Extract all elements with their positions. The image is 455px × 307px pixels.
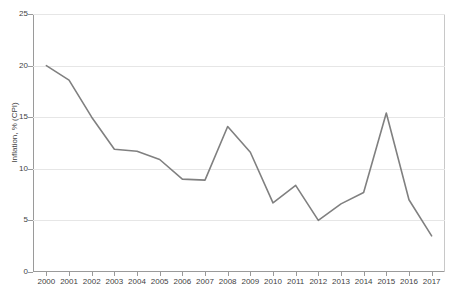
x-tick-label: 2003: [105, 278, 123, 286]
x-tick-mark: [205, 272, 206, 276]
x-tick-mark: [364, 272, 365, 276]
x-tick-mark: [182, 272, 183, 276]
x-tick-mark: [92, 272, 93, 276]
x-axis-ticks: 2000200120022003200420052006200720082009…: [0, 0, 455, 307]
x-tick-mark: [432, 272, 433, 276]
x-tick-label: 2014: [355, 278, 373, 286]
x-tick-label: 2008: [219, 278, 237, 286]
x-tick-label: 2001: [60, 278, 78, 286]
x-tick-mark: [296, 272, 297, 276]
x-tick-label: 2009: [241, 278, 259, 286]
x-tick-label: 2010: [264, 278, 282, 286]
x-tick-mark: [318, 272, 319, 276]
x-tick-mark: [160, 272, 161, 276]
x-tick-label: 2002: [83, 278, 101, 286]
x-tick-label: 2016: [400, 278, 418, 286]
x-tick-label: 2007: [196, 278, 214, 286]
x-tick-mark: [341, 272, 342, 276]
x-tick-label: 2006: [173, 278, 191, 286]
x-tick-label: 2005: [151, 278, 169, 286]
x-tick-mark: [250, 272, 251, 276]
x-tick-mark: [114, 272, 115, 276]
x-tick-mark: [46, 272, 47, 276]
x-tick-mark: [228, 272, 229, 276]
x-tick-label: 2011: [287, 278, 304, 286]
x-tick-mark: [69, 272, 70, 276]
x-tick-label: 2017: [423, 278, 441, 286]
x-tick-label: 2012: [309, 278, 327, 286]
x-tick-mark: [137, 272, 138, 276]
inflation-line-chart: 0510152025 20002001200220032004200520062…: [0, 0, 455, 307]
y-axis-title: Inflation, % (CPI): [10, 73, 19, 193]
x-tick-mark: [386, 272, 387, 276]
x-tick-mark: [409, 272, 410, 276]
x-tick-label: 2000: [37, 278, 55, 286]
x-tick-label: 2013: [332, 278, 350, 286]
x-tick-label: 2015: [377, 278, 395, 286]
x-tick-mark: [273, 272, 274, 276]
x-tick-label: 2004: [128, 278, 146, 286]
